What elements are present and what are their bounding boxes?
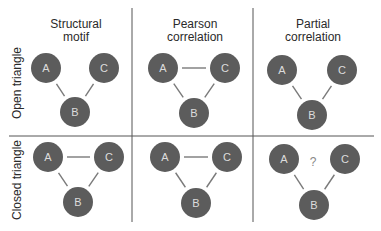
panel-closed-structural: ACB (33, 142, 124, 217)
node-label: B (74, 196, 81, 208)
edge-a-b (176, 173, 186, 187)
panel-open-structural: ACB (31, 53, 119, 127)
node-label: B (310, 199, 317, 211)
node-label: A (44, 151, 52, 163)
edge-a-b (56, 84, 64, 96)
node-a: A (269, 144, 299, 174)
node-b: B (181, 188, 211, 218)
node-b: B (297, 100, 327, 130)
column-header-structural-motif: Structural motif (21, 18, 131, 44)
node-label: A (161, 151, 169, 163)
edge-a-b (59, 173, 68, 186)
node-label: B (192, 197, 199, 209)
node-a: A (267, 55, 297, 85)
node-label: C (100, 62, 108, 74)
header-line: correlation (258, 31, 368, 44)
edge-b-c (323, 86, 332, 99)
edge-a-b (174, 84, 183, 98)
node-label: C (223, 151, 231, 163)
panel-closed-pearson: ACB (150, 142, 242, 218)
node-c: C (327, 55, 357, 85)
edge-b-c (205, 84, 214, 98)
row-label-closed-triangle: Closed triangle (10, 140, 24, 220)
node-c: C (94, 142, 124, 172)
node-label: C (341, 153, 349, 165)
node-c: C (89, 53, 119, 83)
node-c: C (210, 53, 240, 83)
panel-open-pearson: ACB (148, 53, 240, 128)
node-label: A (159, 62, 167, 74)
node-label: B (71, 106, 78, 118)
node-label: A (42, 62, 50, 74)
node-a: A (150, 142, 180, 172)
node-a: A (31, 53, 61, 83)
node-a: A (33, 142, 63, 172)
edge-a-b (293, 86, 302, 99)
node-b: B (60, 97, 90, 127)
header-line: correlation (140, 31, 250, 44)
node-b: B (179, 98, 209, 128)
unknown-edge-marker: ? (310, 155, 317, 169)
edge-a-b (294, 175, 303, 189)
node-label: B (308, 109, 315, 121)
edge-b-c (85, 84, 93, 96)
header-line: motif (21, 31, 131, 44)
node-a: A (148, 53, 178, 83)
node-c: C (212, 142, 242, 172)
node-label: C (105, 151, 113, 163)
node-label: A (280, 153, 288, 165)
panel-open-partial: ACB (267, 55, 357, 130)
node-b: B (299, 190, 329, 220)
node-label: B (190, 107, 197, 119)
node-label: C (221, 62, 229, 74)
column-header-pearson-correlation: Pearson correlation (140, 18, 250, 44)
edge-b-c (325, 175, 335, 189)
edge-b-c (207, 173, 217, 187)
node-c: C (330, 144, 360, 174)
node-label: C (338, 64, 346, 76)
row-label-open-triangle: Open triangle (10, 47, 24, 119)
edge-b-c (89, 173, 98, 187)
node-b: B (63, 187, 93, 217)
column-header-partial-correlation: Partial correlation (258, 18, 368, 44)
panel-closed-partial: ACB? (269, 144, 360, 220)
node-label: A (278, 64, 286, 76)
motif-correlation-diagram: ACBACBACBACBACBACB? Structural motif Pea… (0, 0, 381, 231)
